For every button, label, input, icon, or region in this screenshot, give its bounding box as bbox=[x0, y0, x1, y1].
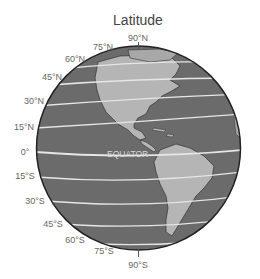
latitude-label: 15°S bbox=[15, 171, 35, 181]
latitude-label: 90°N bbox=[128, 33, 148, 43]
latitude-label: 30°N bbox=[24, 96, 44, 106]
latitude-label: 0° bbox=[21, 147, 30, 157]
latitude-label: 30°S bbox=[25, 196, 45, 206]
latitude-label: 45°N bbox=[42, 72, 62, 82]
latitude-label: 90°S bbox=[128, 260, 148, 270]
latitude-label: 75°S bbox=[94, 246, 114, 256]
latitude-label: 45°S bbox=[43, 219, 63, 229]
latitude-label: 60°S bbox=[65, 235, 85, 245]
latitude-label: 60°N bbox=[65, 54, 85, 64]
latitude-label: 75°N bbox=[93, 42, 113, 52]
latitude-label: 15°N bbox=[14, 122, 34, 132]
equator-label: EQUATOR bbox=[107, 149, 148, 159]
